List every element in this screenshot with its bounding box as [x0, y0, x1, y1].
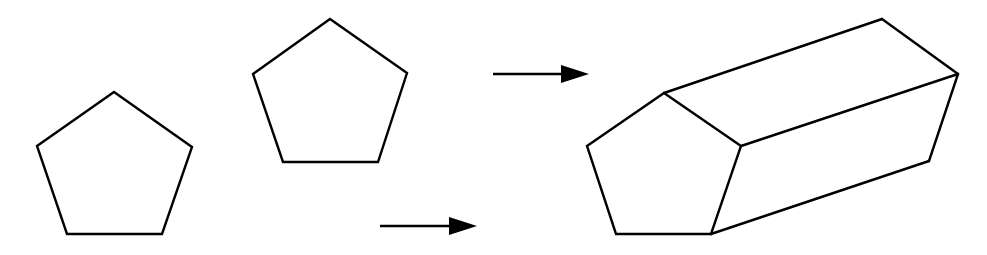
pentagon-top	[253, 19, 407, 162]
pentagonal-prism-diagram	[0, 0, 987, 255]
prism-edges	[664, 19, 958, 234]
prism-edge	[741, 74, 958, 146]
pentagonal-prism	[587, 19, 958, 234]
prism-edge	[664, 19, 882, 93]
arrow-top-icon	[493, 65, 589, 83]
prism-edge	[711, 161, 929, 234]
prism-edge	[882, 19, 958, 74]
prism-front-face	[587, 93, 741, 234]
prism-edge	[929, 74, 958, 161]
pentagon-left	[37, 92, 192, 234]
arrow-bottom-icon	[380, 217, 477, 235]
